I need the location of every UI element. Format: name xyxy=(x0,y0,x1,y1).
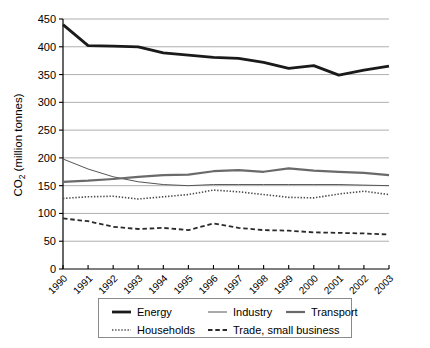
svg-text:CO2 (million tonnes): CO2 (million tonnes) xyxy=(12,93,27,196)
series-line-trade-small-business xyxy=(63,218,389,234)
y-tick-label: 0 xyxy=(50,263,56,275)
x-tick-label: 1996 xyxy=(196,272,220,296)
chart-canvas: CO2 (million tonnes) 0501001502002503003… xyxy=(0,0,430,348)
legend-label-transport: Transport xyxy=(311,306,358,318)
x-tick-label: 1992 xyxy=(96,272,120,296)
y-tick-label: 250 xyxy=(38,124,56,136)
legend-label-households: Households xyxy=(137,324,196,336)
x-tick-labels: 1990199119921993199419951996199719981999… xyxy=(46,272,396,296)
y-tick-label: 400 xyxy=(38,41,56,53)
co2-emissions-line-chart: CO2 (million tonnes) 0501001502002503003… xyxy=(0,0,430,348)
x-tick-label: 2003 xyxy=(372,272,396,296)
y-tick-label: 150 xyxy=(38,180,56,192)
series-line-households xyxy=(63,190,389,199)
y-tick-label: 300 xyxy=(38,96,56,108)
series-line-transport xyxy=(63,168,389,181)
y-tick-labels: 050100150200250300350400450 xyxy=(38,13,56,275)
y-tick-label: 200 xyxy=(38,152,56,164)
data-series-group xyxy=(63,25,389,235)
x-tick-label: 1994 xyxy=(146,272,170,296)
x-tick-label: 1991 xyxy=(71,272,95,296)
x-tick-label: 1995 xyxy=(171,272,195,296)
y-tick-label: 350 xyxy=(38,69,56,81)
x-tick-label: 2001 xyxy=(322,272,346,296)
x-tick-label: 1997 xyxy=(221,272,245,296)
legend-label-industry: Industry xyxy=(233,306,273,318)
y-tick-label: 450 xyxy=(38,13,56,25)
x-tick-label: 2002 xyxy=(347,272,371,296)
y-axis-label-main: CO xyxy=(12,179,24,196)
x-tick-label: 1990 xyxy=(46,272,70,296)
y-tick-label: 100 xyxy=(38,207,56,219)
series-line-energy xyxy=(63,25,389,76)
gridlines xyxy=(63,19,389,241)
y-axis-label-rest: (million tonnes) xyxy=(12,93,24,174)
x-tick-label: 1999 xyxy=(272,272,296,296)
x-tick-label: 1993 xyxy=(121,272,145,296)
y-tick-label: 50 xyxy=(44,235,56,247)
x-tick-label: 1998 xyxy=(247,272,271,296)
legend-label-trade-small-business: Trade, small business xyxy=(233,324,340,336)
x-tick-label: 2000 xyxy=(297,272,321,296)
legend: EnergyIndustryTransportHouseholdsTrade, … xyxy=(99,299,358,338)
y-axis-label: CO2 (million tonnes) xyxy=(12,93,27,196)
legend-label-energy: Energy xyxy=(137,306,172,318)
